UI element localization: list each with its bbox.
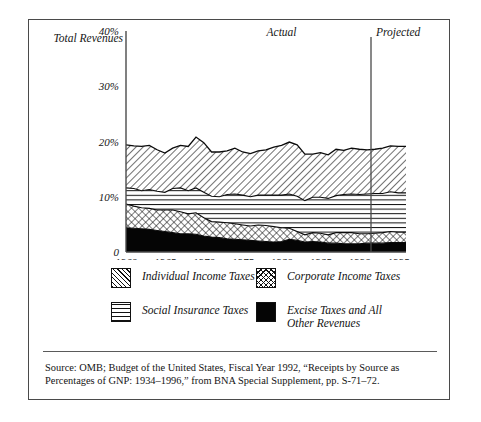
chart-area: 010%20%30%40% 19601965197019751980198519…	[29, 20, 451, 260]
chart-legend: Individual Income Taxes Social Insurance…	[29, 268, 451, 340]
x-tick-label-1: 1965	[154, 256, 177, 260]
legend-column-left: Individual Income Taxes Social Insurance…	[111, 268, 255, 336]
legend-label-corporate-income-taxes: Corporate Income Taxes	[287, 268, 400, 283]
legend-swatch-diagonal-hatch-icon	[111, 268, 131, 288]
x-tick-label-4: 1980	[271, 256, 294, 260]
x-axis-tick-labels: 19601965197019751980198519901995	[115, 256, 410, 260]
x-tick-label-3: 1975	[232, 256, 255, 260]
legend-label-individual-income-taxes: Individual Income Taxes	[142, 268, 255, 283]
source-divider-rule	[43, 351, 437, 352]
legend-swatch-crosshatch-icon	[256, 268, 276, 288]
legend-item-corporate-income-taxes: Corporate Income Taxes	[256, 268, 400, 288]
x-tick-label-5: 1985	[309, 256, 332, 260]
legend-item-individual-income-taxes: Individual Income Taxes	[111, 268, 255, 288]
x-tick-label-7: 1995	[387, 256, 410, 260]
y-tick-label-2: 20%	[99, 136, 119, 148]
y-tick-label-3: 30%	[98, 80, 119, 92]
legend-label-social-insurance-taxes: Social Insurance Taxes	[142, 302, 248, 317]
area-bands	[126, 137, 406, 252]
source-note-text: Source: OMB; Budget of the United States…	[29, 361, 451, 399]
x-tick-label-6: 1990	[348, 256, 371, 260]
projected-label: Projected	[375, 26, 421, 39]
figure-frame: 010%20%30%40% 19601965197019751980198519…	[28, 19, 450, 400]
x-tick-label-0: 1960	[115, 256, 138, 260]
y-tick-label-1: 10%	[99, 191, 119, 203]
legend-swatch-horizontal-lines-icon	[111, 302, 131, 322]
actual-label: Actual	[266, 26, 297, 38]
legend-item-excise-other-revenues: Excise Taxes and All Other Revenues	[256, 302, 400, 329]
legend-column-right: Corporate Income Taxes Excise Taxes and …	[256, 268, 400, 343]
stacked-area-chart: 010%20%30%40% 19601965197019751980198519…	[29, 20, 451, 260]
x-tick-label-2: 1970	[193, 256, 216, 260]
total-revenues-label: Total Revenues	[53, 32, 123, 44]
legend-label-excise-other-revenues: Excise Taxes and All Other Revenues	[287, 302, 382, 329]
legend-swatch-solid-black-icon	[256, 302, 276, 322]
y-axis-tick-labels: 010%20%30%40%	[98, 25, 120, 258]
source-note-block: Source: OMB; Budget of the United States…	[29, 351, 451, 399]
legend-item-social-insurance-taxes: Social Insurance Taxes	[111, 302, 255, 322]
